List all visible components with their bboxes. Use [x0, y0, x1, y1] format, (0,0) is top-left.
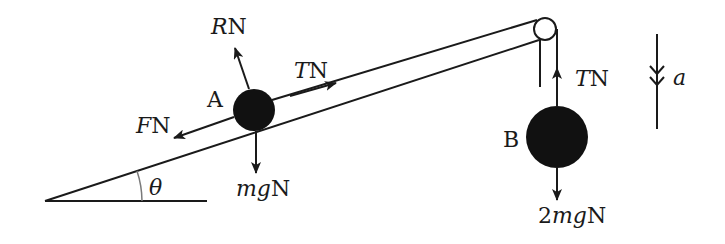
- friction-arrow-a: [174, 117, 234, 138]
- tension-unit-a: N: [309, 58, 328, 83]
- tension-arrow-a: [290, 83, 336, 96]
- friction-label-a: FN: [135, 113, 171, 138]
- particle-b-label: B: [503, 127, 519, 152]
- weight-symbol-b: mg: [552, 203, 587, 228]
- weight-unit-a: N: [271, 176, 290, 201]
- acceleration-indicator: [650, 34, 664, 129]
- friction-unit: N: [151, 113, 170, 138]
- particle-a-label: A: [206, 87, 224, 112]
- acceleration-label: a: [673, 65, 686, 90]
- weight-label-b: 2mgN: [538, 203, 606, 228]
- weight-unit-b: N: [587, 203, 606, 228]
- particle-a: [233, 89, 275, 131]
- tension-unit-b: N: [590, 66, 609, 91]
- tension-label-a: TN: [294, 58, 328, 83]
- angle-arc: [137, 171, 142, 201]
- normal-force-symbol: R: [210, 14, 228, 39]
- weight-label-a: mgN: [236, 176, 290, 201]
- angle-label: θ: [149, 175, 162, 200]
- tension-label-b: TN: [575, 66, 609, 91]
- pulley-incline-diagram: θ A RN TN FN mgN B TN 2mgN a: [0, 0, 725, 244]
- inclined-plane: [45, 40, 539, 201]
- normal-force-arrow-a: [235, 48, 249, 89]
- incline-surface: [45, 40, 539, 201]
- weight-symbol-a: mg: [236, 176, 271, 201]
- weight-prefix-b: 2: [538, 203, 552, 228]
- normal-force-label-a: RN: [210, 14, 247, 39]
- normal-force-unit: N: [228, 14, 247, 39]
- friction-symbol: F: [135, 113, 152, 138]
- particle-b: [526, 106, 588, 168]
- pulley: [534, 18, 556, 40]
